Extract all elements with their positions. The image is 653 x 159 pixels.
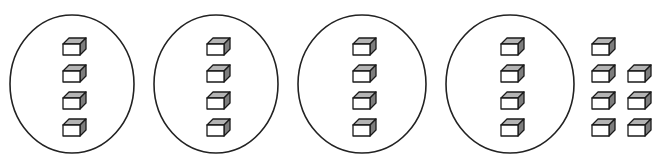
- unit-cube-icon: [592, 92, 615, 109]
- cube-front-face: [592, 125, 609, 136]
- unit-cube-icon: [592, 38, 615, 55]
- unit-cube-icon: [501, 119, 524, 136]
- unit-cube-icon: [501, 65, 524, 82]
- unit-cube-icon: [207, 38, 230, 55]
- unit-cube-icon: [353, 38, 376, 55]
- cube-front-face: [353, 98, 370, 109]
- unit-cube-icon: [207, 119, 230, 136]
- unit-cube-icon: [207, 92, 230, 109]
- cube-front-face: [501, 44, 518, 55]
- cube-front-face: [207, 98, 224, 109]
- cube-front-face: [501, 71, 518, 82]
- unit-cube-icon: [63, 38, 86, 55]
- unit-cube-icon: [63, 119, 86, 136]
- unit-cube-icon: [63, 65, 86, 82]
- cube-front-face: [592, 98, 609, 109]
- cube-front-face: [592, 44, 609, 55]
- cube-front-face: [501, 98, 518, 109]
- cube-front-face: [63, 125, 80, 136]
- group-circles-layer: [10, 15, 574, 153]
- cube-front-face: [63, 98, 80, 109]
- cube-grouping-diagram: [0, 0, 653, 159]
- unit-cube-icon: [353, 65, 376, 82]
- unit-cube-icon: [353, 119, 376, 136]
- cube-front-face: [628, 71, 645, 82]
- diagram-canvas: [0, 0, 653, 159]
- unit-cube-icon: [501, 38, 524, 55]
- cube-front-face: [353, 44, 370, 55]
- cube-front-face: [353, 71, 370, 82]
- unit-cube-icon: [501, 92, 524, 109]
- unit-cube-icon: [592, 119, 615, 136]
- cube-front-face: [628, 98, 645, 109]
- unit-cube-icon: [353, 92, 376, 109]
- cube-front-face: [207, 44, 224, 55]
- unit-cube-icon: [207, 65, 230, 82]
- unit-cube-icon: [628, 119, 651, 136]
- cube-front-face: [353, 125, 370, 136]
- unit-cube-icon: [63, 92, 86, 109]
- cube-front-face: [628, 125, 645, 136]
- cube-front-face: [63, 44, 80, 55]
- cube-front-face: [501, 125, 518, 136]
- cube-front-face: [207, 71, 224, 82]
- cube-front-face: [63, 71, 80, 82]
- unit-cube-icon: [592, 65, 615, 82]
- unit-cube-icon: [628, 65, 651, 82]
- unit-cube-icon: [628, 92, 651, 109]
- cube-front-face: [207, 125, 224, 136]
- cube-front-face: [592, 71, 609, 82]
